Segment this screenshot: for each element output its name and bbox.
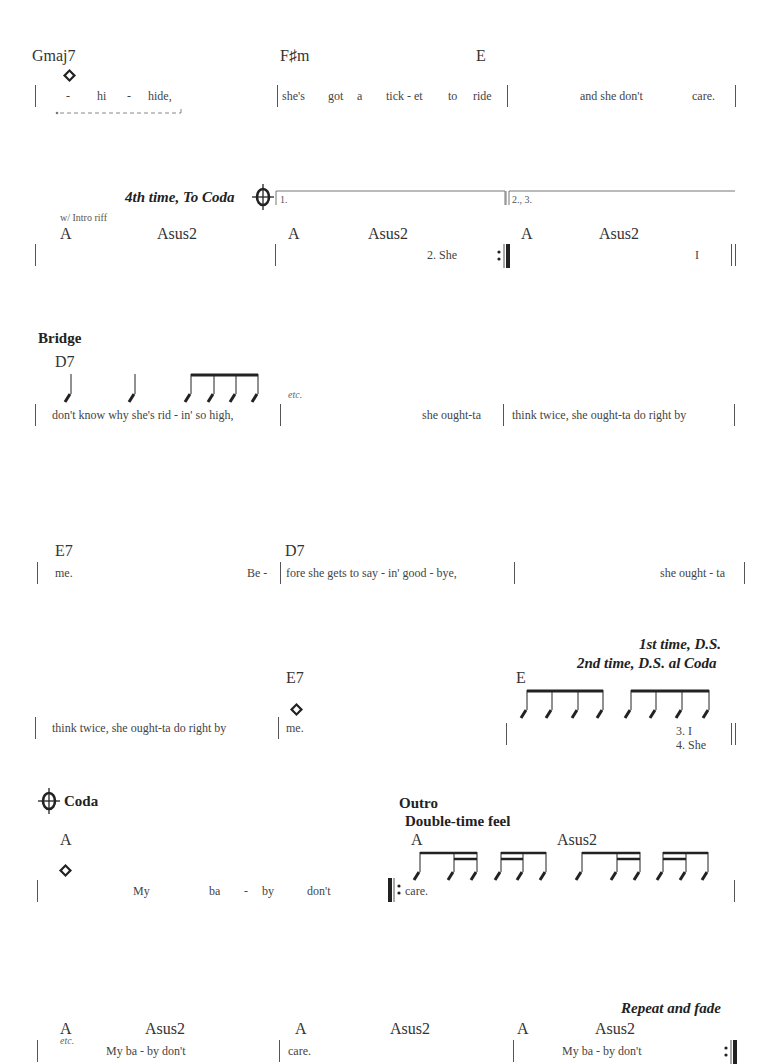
barline: [277, 85, 278, 107]
first-ending-bracket: [275, 190, 507, 206]
barline: [37, 1040, 38, 1062]
barline: [35, 717, 36, 739]
chord-a: A: [411, 831, 423, 849]
lyric: think twice, she ought-ta do right by: [52, 721, 226, 736]
chord-a: A: [60, 225, 72, 243]
lyric: My ba - by don't: [106, 1044, 186, 1059]
repeat-end-barline: [723, 1040, 739, 1064]
second-ending-bracket: [505, 190, 737, 206]
ending-number: 2., 3.: [512, 194, 532, 205]
chord-asus2: Asus2: [595, 1020, 635, 1038]
lyric: a: [357, 89, 362, 104]
coda-label: Coda: [64, 793, 98, 810]
verse-4-lyric: 4. She: [676, 738, 706, 753]
lyric: got: [328, 89, 343, 104]
lyric: she ought-ta: [422, 408, 481, 423]
lyric: hi: [97, 89, 106, 104]
double-barline: [731, 723, 732, 745]
lyric: she ought - ta: [660, 566, 725, 581]
whole-note-rhythm-icon: [290, 704, 304, 716]
lyric: care.: [405, 884, 428, 899]
barline: [506, 723, 507, 745]
coda-symbol-icon: [252, 184, 274, 210]
repeat-and-fade-direction: Repeat and fade: [621, 1000, 721, 1017]
chord-gmaj7: Gmaj7: [32, 47, 76, 65]
chord-e: E: [476, 47, 486, 65]
outro-label: Outro: [399, 795, 438, 812]
lyric: she's: [282, 89, 305, 104]
verse-3-lyric: 3. I: [676, 724, 692, 739]
double-barline: [735, 244, 736, 266]
lyric: by: [262, 884, 274, 899]
lyric: me.: [55, 566, 73, 581]
barline: [735, 85, 736, 107]
double-barline: [731, 244, 732, 266]
lyric: care.: [288, 1044, 311, 1059]
barline: [503, 404, 504, 426]
barline: [279, 1040, 280, 1062]
lyric: me.: [286, 721, 304, 736]
chord-asus2: Asus2: [145, 1020, 185, 1038]
whole-note-rhythm-icon: [59, 865, 73, 877]
barline: [507, 85, 508, 107]
chord-e: E: [516, 669, 526, 687]
barline: [744, 562, 745, 584]
lyric: and she don't: [580, 89, 643, 104]
riff-note: w/ Intro riff: [60, 212, 107, 223]
rhythm-slashes: [55, 372, 265, 404]
barline: [280, 404, 281, 426]
chord-fsharp-minor: F♯m: [280, 47, 309, 65]
lyric: My ba - by don't: [562, 1044, 642, 1059]
repeat-start-barline: [388, 878, 404, 902]
double-time-rhythm-slashes: [410, 850, 710, 882]
chord-d7: D7: [285, 542, 305, 560]
barline: [734, 404, 735, 426]
chord-a: A: [295, 1020, 307, 1038]
etc-marking: etc.: [288, 389, 302, 400]
lyric: tick - et: [386, 89, 423, 104]
ending-number: 1.: [280, 194, 288, 205]
chord-d7: D7: [55, 353, 75, 371]
chord-a: A: [288, 225, 300, 243]
coda-symbol-icon: [38, 788, 60, 814]
section-label-bridge: Bridge: [38, 330, 81, 347]
barline: [35, 404, 36, 426]
lyric: care.: [692, 89, 715, 104]
lyric: -: [244, 884, 248, 899]
lyric: ba: [209, 884, 220, 899]
etc-marking: etc.: [60, 1035, 74, 1046]
lyric: Be -: [247, 566, 267, 581]
lyric: My: [133, 884, 150, 899]
lyric: I: [695, 248, 699, 263]
barline: [37, 880, 38, 902]
lyric: think twice, she ought-ta do right by: [512, 408, 686, 423]
double-barline: [735, 723, 736, 745]
repeat-end-barline: [496, 244, 512, 268]
lyric: -: [66, 89, 70, 104]
lyric: hide,: [148, 89, 172, 104]
double-time-feel-label: Double-time feel: [405, 813, 510, 830]
barline: [514, 562, 515, 584]
ds-direction-line1: 1st time, D.S.: [639, 636, 721, 653]
lyric: fore she gets to say - in' good - bye,: [286, 566, 457, 581]
lyric: don't: [307, 884, 331, 899]
barline: [35, 244, 36, 266]
chord-e7: E7: [286, 669, 304, 687]
to-coda-direction: 4th time, To Coda: [125, 189, 234, 206]
barline: [513, 1040, 514, 1062]
melisma-extender-icon: [55, 108, 185, 116]
whole-note-rhythm-icon: [63, 70, 77, 82]
chord-asus2: Asus2: [557, 831, 597, 849]
chord-a: A: [517, 1020, 529, 1038]
chord-asus2: Asus2: [368, 225, 408, 243]
ds-direction-line2: 2nd time, D.S. al Coda: [577, 655, 717, 672]
lyric: 2. She: [427, 248, 457, 263]
lyric: to: [448, 89, 457, 104]
chord-e7: E7: [55, 542, 73, 560]
barline: [734, 880, 735, 902]
chord-a: A: [521, 225, 533, 243]
lyric: -: [127, 89, 131, 104]
rhythm-slashes: [515, 688, 715, 720]
chord-asus2: Asus2: [390, 1020, 430, 1038]
barline: [278, 717, 279, 739]
